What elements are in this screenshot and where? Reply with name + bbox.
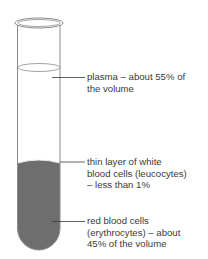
plasma-label: plasma – about 55% of the volume — [87, 71, 185, 94]
plasma-label-line-2: the volume — [87, 83, 185, 95]
red-cells-label-line-2: (erythrocytes) – about — [87, 227, 180, 239]
red-cells-label: red blood cells (erythrocytes) – about 4… — [87, 215, 180, 250]
white-cells-label: thin layer of white blood cells (leucocy… — [87, 156, 187, 191]
red-cells-label-line-3: 45% of the volume — [87, 238, 180, 250]
white-cells-label-line-2: blood cells (leucocytes) — [87, 168, 187, 180]
plasma-label-line-1: plasma – about 55% of — [87, 71, 185, 83]
white-cells-label-line-3: – less than 1% — [87, 179, 187, 191]
red-blood-cells-layer — [18, 160, 61, 250]
white-cells-label-line-1: thin layer of white — [87, 156, 187, 168]
plasma-meniscus — [18, 64, 60, 72]
red-cells-label-line-1: red blood cells — [87, 215, 180, 227]
